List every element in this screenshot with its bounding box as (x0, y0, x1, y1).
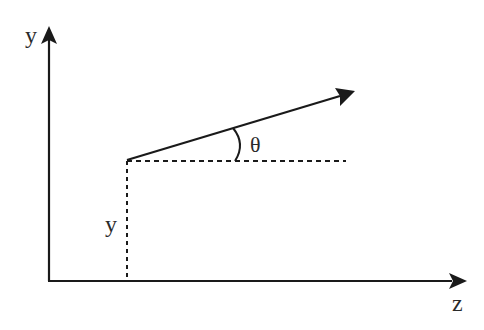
direction-vector (127, 88, 355, 160)
coordinate-diagram: y z y θ (0, 0, 484, 330)
angle-label: θ (250, 132, 261, 157)
y-axis-label: y (25, 22, 37, 48)
z-axis-label: z (452, 290, 463, 316)
angle-arc (233, 128, 240, 161)
z-axis (48, 273, 467, 289)
height-label: y (105, 211, 117, 237)
y-axis (41, 26, 57, 281)
